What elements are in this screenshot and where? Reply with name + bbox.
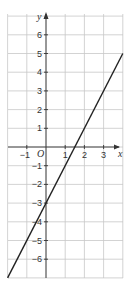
y-tick-label: 4: [37, 67, 42, 77]
tick-labels: −1123654321−1−2−3−4−5−6xyO: [20, 11, 123, 264]
coordinate-plane: −1123654321−1−2−3−4−5−6xyO: [0, 0, 132, 284]
y-axis-arrow-icon: [44, 12, 49, 19]
y-tick-label: −3: [32, 198, 42, 208]
y-tick-label: −1: [32, 161, 42, 171]
x-axis-label: x: [117, 148, 123, 159]
y-tick-label: 6: [37, 30, 42, 40]
y-tick-label: 5: [37, 49, 42, 59]
y-tick-label: 3: [37, 86, 42, 96]
y-tick-label: −2: [32, 179, 42, 189]
x-tick-label: 2: [82, 150, 87, 160]
x-tick-label: 3: [101, 150, 106, 160]
origin-label: O: [37, 148, 44, 159]
x-tick-label: 1: [63, 150, 68, 160]
y-tick-label: 2: [37, 105, 42, 115]
y-tick-label: 1: [37, 123, 42, 133]
y-tick-label: −6: [32, 254, 42, 264]
y-tick-label: −5: [32, 236, 42, 246]
x-tick-label: −1: [20, 150, 30, 160]
y-axis-label: y: [36, 11, 42, 22]
